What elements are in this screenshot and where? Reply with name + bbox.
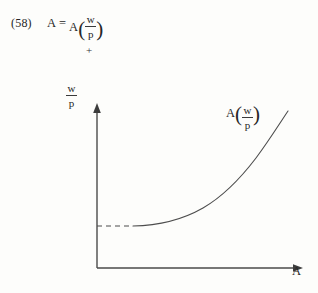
curve-label: A(wp): [226, 106, 260, 132]
y-axis-numerator: w: [67, 83, 77, 94]
equation-number: (58): [11, 16, 32, 31]
equation-expression: A = A(wp): [47, 15, 103, 41]
plus-subscript: +: [86, 44, 92, 56]
figure-plot: w p A A(wp): [0, 78, 318, 293]
x-axis-label: A: [292, 264, 301, 279]
equation-block: (58) A = A(wp) +: [0, 0, 318, 72]
equation-right-side: A(wp): [69, 15, 103, 41]
curve-label-denominator: p: [244, 119, 252, 131]
fraction-numerator: w: [86, 14, 96, 25]
curve-label-open-paren: (: [235, 106, 242, 122]
open-paren: (: [78, 21, 85, 37]
curve-label-function: A: [226, 106, 235, 121]
function-symbol: A: [69, 19, 78, 35]
curve-label-fraction: wp: [242, 105, 253, 131]
close-paren: ): [96, 21, 103, 37]
curve-label-fraction-bar: [242, 117, 253, 118]
fraction-denominator: p: [87, 28, 95, 40]
curve-label-close-paren: ): [253, 106, 260, 122]
equation-left-side: A: [47, 15, 56, 31]
equals-sign: =: [56, 15, 69, 31]
curve-label-numerator: w: [243, 105, 253, 116]
plot-svg: [0, 78, 318, 293]
y-axis-denominator: p: [68, 97, 76, 109]
y-axis-arrowhead: [93, 103, 101, 113]
y-axis-fraction: w p: [66, 83, 77, 109]
scanned-page: (58) A = A(wp) + w: [0, 0, 318, 293]
curve-a-of-w-over-p: [133, 111, 288, 226]
fraction-bar: [85, 26, 96, 27]
y-axis-label: w p: [66, 84, 77, 110]
fraction-w-over-p: wp: [85, 14, 96, 40]
y-axis-fraction-bar: [66, 95, 77, 96]
